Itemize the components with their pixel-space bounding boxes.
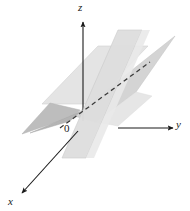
figure-canvas xyxy=(0,0,190,211)
y-axis-label: y xyxy=(176,119,181,130)
origin-label: 0 xyxy=(64,123,70,134)
x-axis-label: x xyxy=(8,196,13,207)
x-axis-line xyxy=(22,131,78,193)
plane-intersection-figure: z y x 0 xyxy=(0,0,190,211)
z-axis-label: z xyxy=(78,2,82,13)
